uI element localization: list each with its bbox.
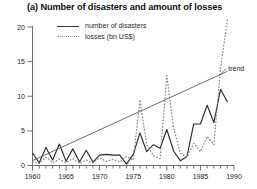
- x-axis-tick-label: 1980: [159, 173, 175, 180]
- y-axis-tick-label: 15: [17, 58, 25, 65]
- plot-area: 05101520 1960196519701975198019851990 tr…: [0, 0, 257, 189]
- x-axis-tick-label: 1985: [193, 173, 209, 180]
- y-axis-tick-label: 10: [17, 93, 25, 100]
- x-axis-tick-label: 1970: [92, 173, 108, 180]
- x-axis-tick-label: 1975: [125, 173, 141, 180]
- series-line-trend: [33, 71, 228, 160]
- y-axis-tick-label: 5: [21, 127, 25, 134]
- series-line-number-of-disasters: [33, 89, 228, 164]
- x-axis-tick-label: 1990: [226, 173, 242, 180]
- annotation-label-trend: trend: [228, 65, 244, 72]
- x-axis-tick-label: 1965: [58, 173, 74, 180]
- x-axis-tick-label: 1960: [25, 173, 41, 180]
- data-series: [33, 20, 228, 164]
- y-axis-tick-label: 20: [17, 24, 25, 31]
- y-axis-tick-label: 0: [21, 162, 25, 169]
- chart-figure: (a) Number of disasters and amount of lo…: [0, 0, 257, 189]
- chart-annotations: trend: [219, 65, 244, 76]
- x-axis-ticks: 1960196519701975198019851990: [25, 166, 242, 181]
- series-line-losses-bn-us-: [33, 20, 228, 163]
- y-axis-ticks: 05101520: [17, 24, 32, 170]
